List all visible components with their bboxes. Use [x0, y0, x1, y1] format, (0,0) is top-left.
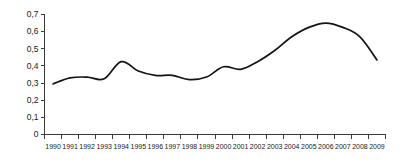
y-tick-label: 0	[34, 129, 39, 139]
x-tick-label: 1991	[62, 143, 78, 150]
y-tick-label: 0,6	[27, 26, 39, 36]
x-tick-label: 2002	[250, 143, 266, 150]
data-series-group	[53, 23, 377, 84]
x-tick-label: 1998	[182, 143, 198, 150]
x-tick-label: 2009	[369, 143, 385, 150]
x-tick-label: 2005	[301, 143, 317, 150]
x-tick-label: 2007	[335, 143, 351, 150]
y-tick-label: 0,7	[27, 9, 39, 19]
x-tick-label: 1990	[45, 143, 61, 150]
x-tick-label: 2003	[267, 143, 283, 150]
x-tick-label: 2001	[233, 143, 249, 150]
x-tick-label: 2008	[352, 143, 368, 150]
x-tick-label: 1995	[130, 143, 146, 150]
x-tick-label: 2006	[318, 143, 334, 150]
x-tick-label: 1993	[96, 143, 112, 150]
chart-plot-area: 00,10,20,30,40,50,60,7 19901991199219931…	[0, 0, 401, 164]
x-tick-label: 1999	[199, 143, 215, 150]
y-axis: 00,10,20,30,40,50,60,7	[27, 9, 45, 139]
data-line	[53, 23, 377, 84]
y-tick-label: 0,5	[27, 44, 39, 54]
x-tick-label: 2004	[284, 143, 300, 150]
x-tick-label: 1996	[148, 143, 164, 150]
x-tick-label: 1992	[79, 143, 95, 150]
y-tick-label: 0,4	[27, 61, 39, 71]
x-axis: 1990199119921993199419951996199719981999…	[45, 135, 386, 150]
y-tick-label: 0,2	[27, 95, 39, 105]
x-tick-label: 1994	[113, 143, 129, 150]
x-tick-label: 2000	[216, 143, 232, 150]
y-tick-label: 0,3	[27, 78, 39, 88]
line-chart: 00,10,20,30,40,50,60,7 19901991199219931…	[0, 0, 401, 164]
y-tick-label: 0,1	[27, 112, 39, 122]
x-tick-label: 1997	[165, 143, 181, 150]
